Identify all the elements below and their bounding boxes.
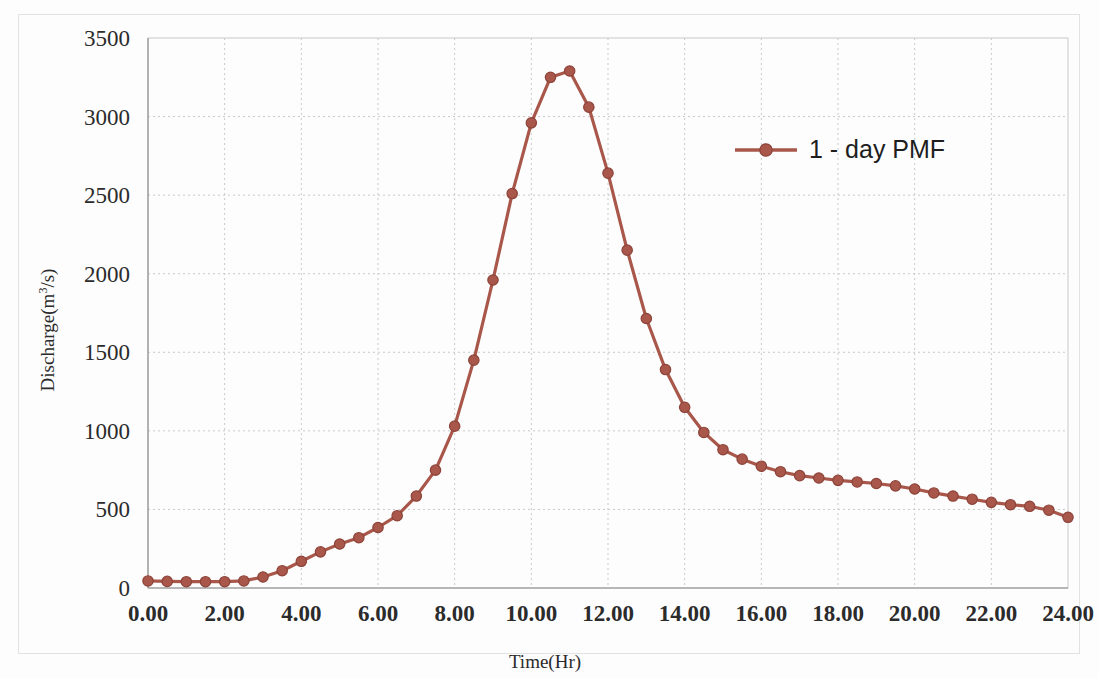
hydrograph-plot: 0500100015002000250030003500 0.002.004.0… — [0, 0, 1099, 679]
chart-legend[interactable]: 1 - day PMF — [735, 135, 945, 163]
data-point-marker — [507, 188, 517, 198]
data-point-marker — [545, 72, 555, 82]
data-point-marker — [660, 364, 670, 374]
x-axis-tick-label: 10.00 — [505, 601, 557, 626]
chart-container: 0500100015002000250030003500 0.002.004.0… — [0, 0, 1099, 679]
legend-entry-label: 1 - day PMF — [809, 135, 945, 163]
x-axis-tick-label: 16.00 — [735, 601, 787, 626]
data-point-marker — [526, 118, 536, 128]
x-axis-title: Time(Hr) — [509, 651, 581, 673]
x-axis-tick-label: 20.00 — [889, 601, 941, 626]
data-point-marker — [334, 539, 344, 549]
data-point-marker — [430, 465, 440, 475]
x-axis-tick-label: 24.00 — [1042, 601, 1094, 626]
data-point-marker — [718, 445, 728, 455]
x-axis-tick-label: 18.00 — [812, 601, 864, 626]
x-axis-tick-labels: 0.002.004.006.008.0010.0012.0014.0016.00… — [128, 601, 1094, 626]
data-point-marker — [986, 497, 996, 507]
data-point-marker — [564, 66, 574, 76]
y-axis-tick-label: 3000 — [84, 105, 130, 130]
data-point-marker — [679, 402, 689, 412]
x-axis-tick-label: 0.00 — [128, 601, 168, 626]
data-point-marker — [622, 245, 632, 255]
x-axis-tick-label: 6.00 — [358, 601, 398, 626]
x-axis-tick-label: 22.00 — [965, 601, 1017, 626]
data-point-marker — [469, 355, 479, 365]
data-point-marker — [200, 577, 210, 587]
data-point-marker — [929, 488, 939, 498]
legend-marker-swatch — [760, 144, 772, 156]
data-point-marker — [315, 547, 325, 557]
data-point-marker — [833, 475, 843, 485]
data-point-marker — [181, 577, 191, 587]
y-axis-title-base: Discharge(m — [37, 293, 59, 391]
data-point-marker — [277, 566, 287, 576]
data-point-marker — [967, 494, 977, 504]
data-point-marker — [1005, 500, 1015, 510]
x-axis-tick-label: 2.00 — [205, 601, 245, 626]
data-point-marker — [737, 454, 747, 464]
data-point-marker — [794, 470, 804, 480]
data-point-marker — [603, 168, 613, 178]
data-point-marker — [909, 484, 919, 494]
x-axis-tick-label: 14.00 — [659, 601, 711, 626]
y-axis-tick-label: 2000 — [84, 262, 130, 287]
y-axis-tick-label: 3500 — [84, 26, 130, 51]
x-axis-tick-label: 8.00 — [435, 601, 475, 626]
data-point-marker — [162, 576, 172, 586]
data-point-marker — [1024, 501, 1034, 511]
y-axis-tick-label: 500 — [96, 497, 131, 522]
y-axis-tick-label: 0 — [119, 576, 131, 601]
data-point-marker — [584, 102, 594, 112]
data-point-marker — [852, 477, 862, 487]
data-point-marker — [814, 473, 824, 483]
x-axis-tick-label: 4.00 — [281, 601, 321, 626]
data-point-marker — [1063, 512, 1073, 522]
data-point-marker — [449, 421, 459, 431]
data-point-marker — [488, 275, 498, 285]
data-point-marker — [641, 313, 651, 323]
data-point-marker — [239, 576, 249, 586]
x-axis-tick-label: 12.00 — [582, 601, 634, 626]
y-axis-tick-labels: 0500100015002000250030003500 — [84, 26, 130, 601]
y-axis-tick-label: 1000 — [84, 419, 130, 444]
data-point-marker — [296, 556, 306, 566]
y-axis-title: Discharge(m3/s) — [36, 269, 59, 392]
vertical-gridlines — [225, 38, 992, 588]
data-point-marker — [948, 491, 958, 501]
data-point-marker — [699, 427, 709, 437]
y-axis-tick-label: 2500 — [84, 183, 130, 208]
data-point-marker — [354, 533, 364, 543]
y-axis-tick-label: 1500 — [84, 340, 130, 365]
data-point-marker — [143, 576, 153, 586]
data-point-marker — [392, 511, 402, 521]
data-point-marker — [756, 461, 766, 471]
data-point-marker — [258, 572, 268, 582]
data-point-marker — [890, 481, 900, 491]
data-point-marker — [775, 467, 785, 477]
data-point-marker — [411, 491, 421, 501]
data-point-marker — [871, 478, 881, 488]
y-axis-title-tail: /s) — [37, 269, 59, 288]
data-point-marker — [219, 577, 229, 587]
data-point-marker — [373, 522, 383, 532]
data-point-marker — [1044, 505, 1054, 515]
